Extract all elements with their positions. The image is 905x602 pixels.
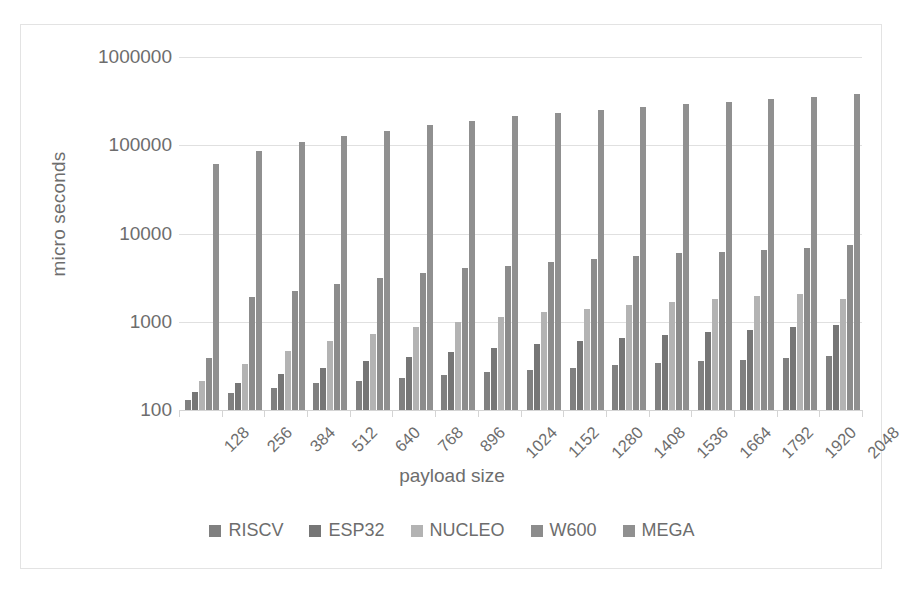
bar-esp32[interactable] <box>662 335 668 410</box>
bar-w600[interactable] <box>292 291 298 410</box>
bar-nucleo[interactable] <box>455 322 461 410</box>
bar-w600[interactable] <box>334 284 340 410</box>
bar-mega[interactable] <box>640 107 646 410</box>
bar-esp32[interactable] <box>833 325 839 410</box>
bar-nucleo[interactable] <box>242 364 248 410</box>
bar-esp32[interactable] <box>747 330 753 410</box>
bar-nucleo[interactable] <box>413 327 419 410</box>
bar-riscv[interactable] <box>527 370 533 410</box>
bar-esp32[interactable] <box>235 383 241 410</box>
bar-mega[interactable] <box>768 99 774 410</box>
bar-nucleo[interactable] <box>584 309 590 410</box>
bar-riscv[interactable] <box>570 368 576 410</box>
chart-container: micro seconds 1001000100001000001000000 … <box>20 24 882 569</box>
legend-item-w600[interactable]: W600 <box>531 520 597 541</box>
bar-w600[interactable] <box>249 297 255 410</box>
bar-nucleo[interactable] <box>199 381 205 410</box>
legend-item-esp32[interactable]: ESP32 <box>309 520 384 541</box>
bar-w600[interactable] <box>591 259 597 410</box>
bar-riscv[interactable] <box>185 400 191 410</box>
bar-mega[interactable] <box>512 116 518 410</box>
bar-group <box>740 57 774 410</box>
bar-esp32[interactable] <box>320 368 326 410</box>
y-axis-tick-label: 100000 <box>52 134 172 156</box>
bar-w600[interactable] <box>462 268 468 410</box>
bar-esp32[interactable] <box>705 332 711 410</box>
bar-nucleo[interactable] <box>840 299 846 410</box>
bar-nucleo[interactable] <box>797 294 803 410</box>
y-axis-tick-label: 10000 <box>52 223 172 245</box>
bar-nucleo[interactable] <box>669 302 675 410</box>
bar-esp32[interactable] <box>790 327 796 410</box>
bar-esp32[interactable] <box>192 392 198 410</box>
bar-esp32[interactable] <box>577 341 583 410</box>
bar-w600[interactable] <box>377 278 383 410</box>
bar-mega[interactable] <box>469 121 475 410</box>
bar-mega[interactable] <box>598 110 604 410</box>
bar-riscv[interactable] <box>271 388 277 410</box>
bar-mega[interactable] <box>555 113 561 410</box>
x-axis-tick <box>264 410 265 417</box>
bar-nucleo[interactable] <box>327 341 333 410</box>
bar-w600[interactable] <box>206 358 212 410</box>
bar-mega[interactable] <box>256 151 262 410</box>
bar-mega[interactable] <box>341 136 347 410</box>
bar-esp32[interactable] <box>448 352 454 410</box>
bar-w600[interactable] <box>804 248 810 410</box>
bar-esp32[interactable] <box>406 357 412 410</box>
bar-group <box>185 57 219 410</box>
bar-mega[interactable] <box>299 142 305 410</box>
bar-w600[interactable] <box>676 253 682 410</box>
bar-riscv[interactable] <box>399 378 405 410</box>
x-axis-tick-label: 896 <box>477 423 510 456</box>
bar-riscv[interactable] <box>826 356 832 410</box>
legend-item-nucleo[interactable]: NUCLEO <box>411 520 505 541</box>
bar-w600[interactable] <box>505 266 511 410</box>
bar-nucleo[interactable] <box>754 296 760 410</box>
bar-riscv[interactable] <box>698 361 704 410</box>
bar-esp32[interactable] <box>619 338 625 410</box>
bar-nucleo[interactable] <box>370 334 376 410</box>
legend-item-mega[interactable]: MEGA <box>623 520 695 541</box>
x-axis-tick-label: 1536 <box>693 423 732 462</box>
bar-group <box>271 57 305 410</box>
bar-riscv[interactable] <box>783 358 789 410</box>
bar-group <box>570 57 604 410</box>
x-axis-tick <box>777 410 778 417</box>
bar-nucleo[interactable] <box>498 317 504 410</box>
bar-nucleo[interactable] <box>712 299 718 410</box>
bar-esp32[interactable] <box>363 361 369 410</box>
bar-w600[interactable] <box>847 245 853 410</box>
bar-riscv[interactable] <box>740 360 746 410</box>
y-axis-tick-label: 1000 <box>52 311 172 333</box>
bar-mega[interactable] <box>427 125 433 410</box>
bar-mega[interactable] <box>683 104 689 410</box>
bar-group <box>826 57 860 410</box>
bar-w600[interactable] <box>420 273 426 410</box>
bar-mega[interactable] <box>726 102 732 410</box>
bar-w600[interactable] <box>548 262 554 410</box>
bar-esp32[interactable] <box>491 348 497 410</box>
bar-esp32[interactable] <box>278 374 284 410</box>
legend-item-riscv[interactable]: RISCV <box>209 520 283 541</box>
bar-esp32[interactable] <box>534 344 540 410</box>
bar-riscv[interactable] <box>356 381 362 410</box>
bar-nucleo[interactable] <box>285 351 291 410</box>
bar-mega[interactable] <box>213 164 219 410</box>
bar-w600[interactable] <box>761 250 767 410</box>
bar-nucleo[interactable] <box>541 312 547 410</box>
bar-riscv[interactable] <box>441 375 447 410</box>
bar-riscv[interactable] <box>228 393 234 410</box>
bar-nucleo[interactable] <box>626 305 632 410</box>
x-axis-tick <box>392 410 393 417</box>
bar-mega[interactable] <box>854 94 860 410</box>
x-axis-tick <box>179 410 180 417</box>
bar-riscv[interactable] <box>612 365 618 410</box>
bar-mega[interactable] <box>811 97 817 410</box>
bar-w600[interactable] <box>633 256 639 410</box>
bar-w600[interactable] <box>719 252 725 410</box>
bar-riscv[interactable] <box>313 383 319 410</box>
bar-mega[interactable] <box>384 131 390 410</box>
bar-riscv[interactable] <box>655 363 661 410</box>
bar-riscv[interactable] <box>484 372 490 410</box>
